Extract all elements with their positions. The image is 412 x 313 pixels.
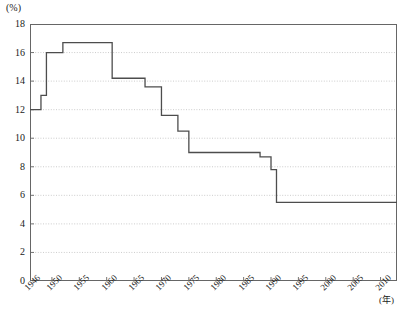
y-tick-label: 2 (7, 247, 25, 257)
x-axis-unit-label: (年) (379, 293, 394, 306)
y-tick-label: 8 (7, 162, 25, 172)
y-tick-label: 4 (7, 219, 25, 229)
y-tick-label: 18 (7, 19, 25, 29)
step-line-chart-svg (30, 24, 397, 281)
data-series-line (30, 43, 397, 203)
y-axis-unit-label: (%) (6, 2, 21, 13)
x-tick-label: 1946 (23, 273, 42, 292)
y-tick-label: 16 (7, 48, 25, 58)
chart-figure: (%) 024681012141618 19461950195519601965… (0, 0, 412, 313)
y-tick-label: 12 (7, 105, 25, 115)
y-tick-label: 14 (7, 76, 25, 86)
y-tick-label: 10 (7, 133, 25, 143)
plot-area (30, 24, 397, 281)
y-tick-label: 6 (7, 190, 25, 200)
